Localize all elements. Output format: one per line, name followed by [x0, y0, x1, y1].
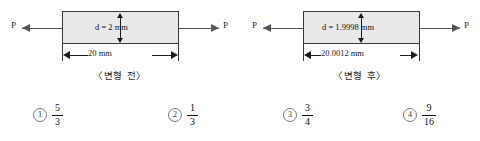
diameter-label: d = 1.9998 mm — [322, 22, 374, 32]
choice-number-4: 4 — [403, 108, 417, 122]
length-label: 20.0012 mm — [321, 48, 364, 58]
choice-3-denominator: 4 — [303, 117, 312, 128]
choice-4-numerator: 9 — [425, 103, 434, 114]
length-dimension-line-right — [152, 55, 171, 56]
figure-after-deformation: P P d = 1.9998 mm 20.0012 mm 〈변형 후〉 — [240, 0, 480, 95]
force-label-left: P — [11, 20, 16, 30]
choice-fraction-1: 5 3 — [52, 103, 63, 127]
load-arrowhead-right-icon — [211, 24, 219, 32]
length-dimension-line-right — [400, 55, 411, 56]
choice-number-1: 1 — [33, 108, 47, 122]
choice-fraction-4: 9 16 — [422, 103, 436, 127]
length-dimension-line-left — [69, 55, 88, 56]
length-arrowhead-right-icon — [171, 51, 178, 59]
choice-1-denominator: 3 — [53, 117, 62, 128]
length-arrowhead-left-icon — [304, 51, 311, 59]
answer-choice-1[interactable]: 1 5 3 — [33, 103, 63, 127]
choice-2-numerator: 1 — [188, 103, 197, 114]
figure-caption-before: 〈변형 전〉 — [0, 68, 240, 82]
length-arrowhead-left-icon — [63, 51, 70, 59]
force-label-right: P — [223, 20, 228, 30]
load-arrowhead-left-icon — [263, 24, 271, 32]
diameter-arrowhead-up-icon — [117, 13, 123, 18]
choice-4-denominator: 16 — [422, 117, 436, 128]
figure-problem-page: P P d = 2 mm 20 mm 〈변형 전〉 P P d = 1.9998… — [0, 0, 480, 141]
length-label: 20 mm — [88, 48, 112, 58]
diameter-label: d = 2 mm — [95, 22, 128, 32]
figure-caption-after: 〈변형 후〉 — [240, 68, 480, 82]
extension-line-right — [178, 44, 179, 61]
length-arrowhead-right-icon — [411, 51, 418, 59]
diameter-arrowhead-down-icon — [358, 38, 364, 43]
answer-choice-2[interactable]: 2 1 3 — [168, 103, 198, 127]
choice-fraction-3: 3 4 — [302, 103, 313, 127]
choice-fraction-2: 1 3 — [187, 103, 198, 127]
choice-1-numerator: 5 — [53, 103, 62, 114]
answer-choices: 1 5 3 2 1 3 3 3 4 4 — [0, 99, 480, 141]
load-arrowhead-left-icon — [22, 24, 30, 32]
extension-line-right — [419, 44, 420, 61]
diameter-arrowhead-up-icon — [358, 13, 364, 18]
choice-number-3: 3 — [283, 108, 297, 122]
force-label-right: P — [464, 20, 469, 30]
diameter-arrowhead-down-icon — [117, 38, 123, 43]
figure-before-deformation: P P d = 2 mm 20 mm 〈변형 전〉 — [0, 0, 240, 95]
answer-choice-3[interactable]: 3 3 4 — [283, 103, 313, 127]
choice-3-numerator: 3 — [303, 103, 312, 114]
choice-number-2: 2 — [168, 108, 182, 122]
load-arrowhead-right-icon — [452, 24, 460, 32]
choice-2-denominator: 3 — [188, 117, 197, 128]
answer-choice-4[interactable]: 4 9 16 — [403, 103, 436, 127]
length-dimension-line-left — [310, 55, 321, 56]
force-label-left: P — [252, 20, 257, 30]
